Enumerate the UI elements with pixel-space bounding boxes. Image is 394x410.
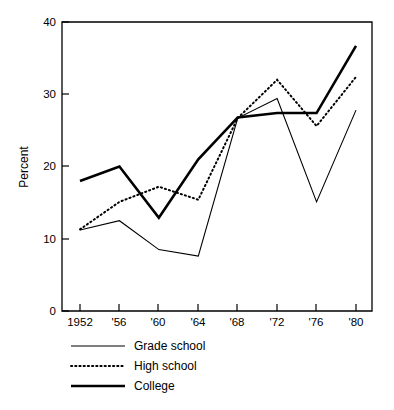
y-axis-tick-labels: 40 30 20 10 0 [43, 16, 56, 317]
chart-figure: 40 30 20 10 0 Percent 1952 '56 '60 '64 '… [0, 0, 394, 410]
x-tick-label-60: '60 [151, 316, 166, 328]
x-tick-label-76: '76 [309, 316, 324, 328]
series-line-grade-school [80, 99, 356, 257]
legend-label-college: College [134, 379, 175, 393]
x-axis-tick-labels: 1952 '56 '60 '64 '68 '72 '76 '80 [67, 316, 363, 328]
y-tick-label-30: 30 [43, 88, 56, 100]
x-axis-ticks [80, 304, 356, 311]
y-axis-ticks [62, 22, 69, 311]
x-tick-label-64: '64 [191, 316, 207, 328]
y-tick-label-20: 20 [43, 160, 56, 172]
x-tick-label-56: '56 [112, 316, 127, 328]
legend-label-high-school: High school [134, 359, 197, 373]
x-tick-label-72: '72 [270, 316, 285, 328]
y-tick-label-10: 10 [43, 233, 56, 245]
y-tick-label-40: 40 [43, 16, 56, 28]
legend-label-grade-school: Grade school [134, 339, 205, 353]
x-tick-label-68: '68 [230, 316, 245, 328]
y-tick-label-0: 0 [50, 305, 56, 317]
x-tick-label-1952: 1952 [67, 316, 93, 328]
plot-frame [62, 22, 372, 311]
series-group [80, 46, 356, 256]
x-tick-label-80: '80 [349, 316, 364, 328]
y-axis-title: Percent [17, 146, 31, 188]
series-line-high-school [80, 77, 356, 229]
chart-legend: Grade school High school College [71, 339, 205, 393]
line-chart: 40 30 20 10 0 Percent 1952 '56 '60 '64 '… [0, 0, 394, 410]
series-line-college [80, 46, 356, 218]
